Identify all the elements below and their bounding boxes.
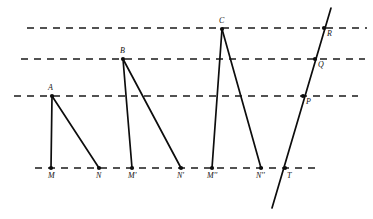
point-label-N: N [96,172,101,180]
vertex-dot-B [121,57,125,61]
figure-canvas [0,0,373,219]
point-label-N1: N' [177,172,184,180]
vertex-dot-C [220,27,224,31]
geometry-figure: AMNBM'N'CM''N''TPQR [0,0,373,219]
point-label-B: B [120,47,125,55]
vertex-dot-M1 [130,166,134,170]
segment-C-M2 [212,29,222,168]
transversal-group [272,8,331,208]
point-label-T: T [287,172,291,180]
segment-B-M1 [123,59,132,168]
point-label-M2: M'' [207,172,217,180]
triangle-segments-group [51,29,261,168]
transversal-T-R [272,8,331,208]
point-label-P: P [306,98,311,106]
vertex-dot-P [301,94,305,98]
vertex-dot-N2 [259,166,263,170]
point-label-R: R [327,30,332,38]
segment-C-N2 [222,29,261,168]
vertex-dot-M2 [210,166,214,170]
point-label-A: A [48,84,53,92]
point-label-M: M [48,172,55,180]
vertex-dots-group [49,26,326,170]
vertex-dot-M [49,166,53,170]
vertex-dot-N [97,166,101,170]
point-label-Q: Q [318,61,324,69]
segment-A-N [52,96,99,168]
vertex-dot-Q [313,57,317,61]
vertex-dot-T [283,166,287,170]
vertex-dot-N1 [179,166,183,170]
vertex-dot-R [322,26,326,30]
point-label-M1: M' [128,172,136,180]
point-label-N2: N'' [256,172,265,180]
segment-A-M [51,96,52,168]
segment-B-N1 [123,59,181,168]
parallel-lines-group [14,28,367,168]
point-label-C: C [219,17,224,25]
vertex-dot-A [50,94,54,98]
